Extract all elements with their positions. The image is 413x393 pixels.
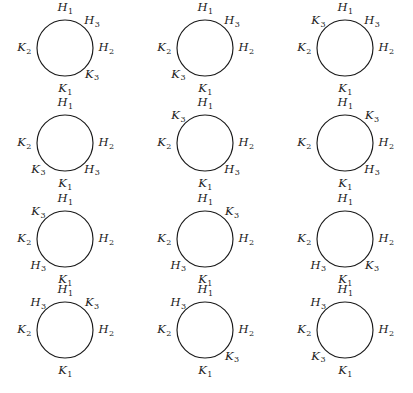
- node-label-k1: K1: [338, 178, 352, 190]
- node-label-h1: H1: [57, 2, 72, 14]
- node-label-k1: K1: [58, 365, 72, 377]
- node-label-h2: H2: [98, 324, 113, 336]
- node-label-k2: K2: [157, 233, 171, 245]
- node-label-k3: K3: [171, 69, 185, 81]
- node-label-h2: H2: [238, 324, 253, 336]
- node-label-k2: K2: [297, 137, 311, 149]
- node-label-k1: K1: [198, 365, 212, 377]
- node-label-k3: K3: [171, 110, 185, 122]
- circle-diagram: H1H2K1K3K2H3: [275, 281, 413, 379]
- node-label-h2: H2: [238, 233, 253, 245]
- node-label-k2: K2: [297, 324, 311, 336]
- node-label-h2: H2: [98, 137, 113, 149]
- node-label-h1: H1: [57, 284, 72, 296]
- node-label-k1: K1: [58, 178, 72, 190]
- node-label-h3: H3: [224, 164, 239, 176]
- node-label-h3: H3: [84, 15, 99, 27]
- node-label-k2: K2: [157, 42, 171, 54]
- node-label-k2: K2: [157, 137, 171, 149]
- node-label-k2: K2: [157, 324, 171, 336]
- node-label-h2: H2: [378, 324, 393, 336]
- circle-diagram: H1K3H2K1K2H3: [0, 281, 135, 379]
- node-label-k3: K3: [311, 351, 325, 363]
- node-label-k3: K3: [225, 351, 239, 363]
- node-label-h2: H2: [378, 233, 393, 245]
- node-label-h1: H1: [337, 193, 352, 205]
- node-label-h2: H2: [378, 42, 393, 54]
- node-label-k2: K2: [17, 42, 31, 54]
- node-label-h3: H3: [311, 260, 326, 272]
- node-label-k1: K1: [338, 365, 352, 377]
- node-label-k3: K3: [85, 69, 99, 81]
- node-label-h3: H3: [31, 297, 46, 309]
- circle-diagram: H1H2K1H3K2K3: [0, 190, 135, 288]
- node-label-h3: H3: [171, 260, 186, 272]
- node-label-k3: K3: [225, 206, 239, 218]
- node-label-k3: K3: [31, 164, 45, 176]
- node-label-h1: H1: [337, 284, 352, 296]
- circle-diagram: H1H2H3K1K2K3: [135, 94, 275, 192]
- node-label-h3: H3: [84, 164, 99, 176]
- circle-diagram: H1H2K3K1H3K2: [275, 190, 413, 288]
- node-label-k3: K3: [31, 206, 45, 218]
- node-label-h2: H2: [238, 42, 253, 54]
- node-label-h1: H1: [337, 97, 352, 109]
- diagram-grid: H1H3H2K3K1K2H1H3H2K1K3K2H1H3H2K1K2K3H1H2…: [0, 0, 413, 393]
- circle-diagram: H1H2K3K1K2H3: [135, 281, 275, 379]
- circle-diagram: H1K3H2H3K1K2: [275, 94, 413, 192]
- node-label-h1: H1: [57, 97, 72, 109]
- node-label-h1: H1: [337, 2, 352, 14]
- circle-diagram: H1H3H2K3K1K2: [0, 0, 135, 97]
- node-label-h3: H3: [364, 164, 379, 176]
- node-label-k2: K2: [297, 233, 311, 245]
- node-label-k2: K2: [17, 324, 31, 336]
- node-label-k2: K2: [297, 42, 311, 54]
- node-label-h3: H3: [224, 15, 239, 27]
- node-label-k1: K1: [198, 178, 212, 190]
- node-label-h2: H2: [98, 42, 113, 54]
- node-label-h3: H3: [31, 260, 46, 272]
- node-label-h1: H1: [57, 193, 72, 205]
- node-label-k3: K3: [85, 297, 99, 309]
- circle-diagram: H1H3H2K1K3K2: [135, 0, 275, 97]
- circle-diagram: H1H2H3K1K3K2: [0, 94, 135, 192]
- node-label-k3: K3: [311, 15, 325, 27]
- node-label-k2: K2: [17, 233, 31, 245]
- node-label-k3: K3: [365, 110, 379, 122]
- node-label-h3: H3: [171, 297, 186, 309]
- node-label-h1: H1: [197, 97, 212, 109]
- node-label-h1: H1: [197, 2, 212, 14]
- circle-diagram: H1K3H2K1H3K2: [135, 190, 275, 288]
- node-label-h2: H2: [98, 233, 113, 245]
- circle-diagram: H1H3H2K1K2K3: [275, 0, 413, 97]
- node-label-h3: H3: [311, 297, 326, 309]
- node-label-k3: K3: [365, 260, 379, 272]
- node-label-h2: H2: [378, 137, 393, 149]
- node-label-h1: H1: [197, 284, 212, 296]
- node-label-k2: K2: [17, 137, 31, 149]
- node-label-h2: H2: [238, 137, 253, 149]
- node-label-h3: H3: [364, 15, 379, 27]
- node-label-h1: H1: [197, 193, 212, 205]
